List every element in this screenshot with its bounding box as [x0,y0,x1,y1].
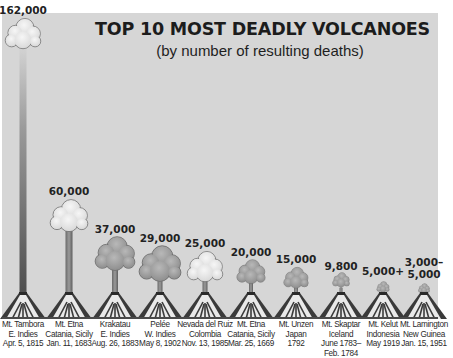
volcano-item: 29,000 PeléeW. Indi [137,0,183,352]
eruption-column [66,225,73,294]
death-count-line2: 5,000 [391,268,453,280]
volcano-item: 9,800 Mt. SkaptarIc [318,0,364,352]
volcano-cone-icon [318,292,364,319]
volcano-item: 5,000+ Mt. KelutInd [360,0,406,352]
death-count-line1: 3,000– [391,256,453,268]
eruption-column [20,40,27,294]
ash-cloud-icon [376,279,390,291]
ash-cloud-icon [283,266,309,290]
volcano-cone-icon [92,292,138,319]
eruption-date: Jan. 15, 1951 [395,339,453,349]
volcano-location: New Guinea [395,330,453,340]
volcano-item: 3,000–5,000 Mt. Lam [401,0,447,352]
ground-line [2,317,438,319]
ash-cloud-icon [4,17,42,51]
volcano-cone-icon [228,292,274,319]
volcano-item: 25,000 Nevada del R [182,0,228,352]
ash-cloud-icon [332,271,350,289]
volcano-item: 15,000 Mt. UnzenJap [273,0,319,352]
volcano-cone-icon [360,292,406,319]
volcano-cone-icon [137,292,183,319]
volcano-item: 162,000 Mt. Tambora [0,0,46,352]
death-count-label: 3,000–5,000 [391,256,453,280]
volcano-item: 37,000 KrakatauE. I [92,0,138,352]
ash-cloud-icon [236,258,266,286]
volcano-cone-icon [46,292,92,319]
volcano-cone-icon [401,292,447,319]
ash-cloud-icon [418,280,430,291]
volcano-cone-icon [182,292,228,319]
volcano-cone-icon [0,292,46,319]
volcano-name: Mt. Lamington [395,320,453,330]
ash-cloud-icon [137,244,183,284]
volcano-caption: Mt. LamingtonNew GuineaJan. 15, 1951 [395,320,453,349]
volcano-cone-icon [273,292,319,319]
volcano-item: 20,000 Mt. EtnaCata [228,0,274,352]
volcano-item: 60,000 Mt. EtnaCata [46,0,92,352]
